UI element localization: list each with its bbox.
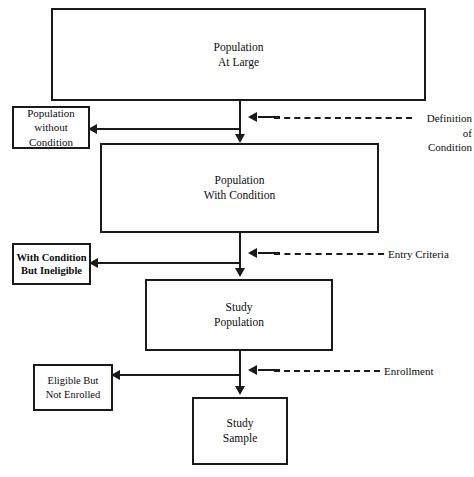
dashed-tip-enrollment: [258, 369, 280, 371]
node-with-condition-but-ineligible[interactable]: With Condition But Ineligible: [12, 243, 91, 285]
annotation-label-line: Enrollment: [384, 364, 434, 379]
annotation-enrollment: Enrollment: [384, 364, 434, 379]
node-label-line: But Ineligible: [21, 264, 82, 277]
arrowhead-down-with-condition: [235, 134, 245, 143]
arrowhead-down-study-population: [235, 268, 245, 277]
connector-branch-ineligible: [97, 262, 241, 264]
connector-at-large-to-with-condition: [239, 100, 241, 137]
node-label-line: Population: [214, 40, 264, 55]
connector-with-condition-to-study-population: [239, 233, 241, 270]
dashed-tip-definition-of-condition: [258, 116, 280, 118]
arrowhead-left-ineligible: [89, 258, 98, 268]
arrowhead-left-entry-criteria: [248, 248, 257, 258]
node-study-sample[interactable]: Study Sample: [192, 397, 288, 465]
arrowhead-left-enrollment: [248, 365, 257, 375]
node-label-line: Study: [227, 416, 254, 431]
connector-branch-without-condition: [96, 128, 241, 130]
arrowhead-left-without-condition: [88, 124, 97, 134]
node-population-without-condition[interactable]: Population without Condition: [12, 106, 90, 149]
connector-branch-not-enrolled: [119, 374, 241, 376]
connector-study-population-to-study-sample: [239, 351, 241, 389]
annotation-label-line: Definition: [414, 111, 472, 126]
annotation-label-line: Condition: [414, 140, 472, 155]
node-label-line: At Large: [218, 55, 259, 70]
node-population-with-condition[interactable]: Population With Condition: [100, 143, 379, 233]
node-study-population[interactable]: Study Population: [145, 279, 333, 351]
annotation-label-line: of: [414, 126, 472, 141]
node-label-line: without: [34, 120, 68, 134]
flowchart-canvas: Population At Large Population without C…: [0, 0, 474, 477]
node-label-line: With Condition: [16, 251, 86, 264]
node-eligible-but-not-enrolled[interactable]: Eligible But Not Enrolled: [33, 364, 113, 411]
dashed-line-entry-criteria: [274, 253, 384, 255]
node-label-line: With Condition: [204, 188, 275, 203]
arrowhead-left-not-enrolled: [111, 370, 120, 380]
annotation-label-line: Entry Criteria: [388, 247, 449, 262]
node-population-at-large[interactable]: Population At Large: [51, 8, 426, 101]
arrowhead-down-study-sample: [235, 386, 245, 395]
node-label-line: Study: [226, 300, 253, 315]
node-label-line: Sample: [223, 431, 258, 446]
annotation-definition-of-condition: Definition of Condition: [414, 111, 472, 155]
annotation-entry-criteria: Entry Criteria: [388, 247, 449, 262]
node-label-line: Population: [215, 173, 265, 188]
dashed-line-enrollment: [274, 370, 380, 372]
node-label-line: Not Enrolled: [46, 388, 101, 401]
node-label-line: Population: [214, 315, 264, 330]
node-label-line: Population: [27, 106, 75, 120]
node-label-line: Condition: [29, 135, 73, 149]
arrowhead-left-definition-of-condition: [248, 112, 257, 122]
node-label-line: Eligible But: [47, 374, 98, 387]
dashed-line-definition-of-condition: [274, 117, 412, 119]
dashed-tip-entry-criteria: [258, 252, 280, 254]
